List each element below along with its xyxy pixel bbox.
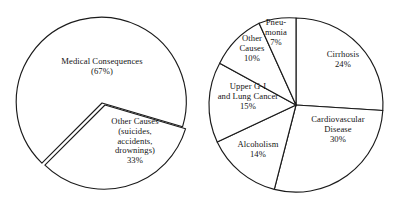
left-label-medical-consequences: Medical Consequences (67%) bbox=[28, 57, 176, 77]
right-label-upper-gi-lung-cancer: Upper G-I and Lung Cancer 15% bbox=[206, 82, 290, 111]
right-label-other-causes: Other Causes 10% bbox=[229, 34, 275, 63]
two-pie-chart-figure: Medical Consequences (67%) Other Causes … bbox=[0, 0, 401, 214]
left-label-other-causes: Other Causes (suicides, accidents, drown… bbox=[92, 117, 178, 166]
right-label-cardiovascular-disease: Cardiovascular Disease 30% bbox=[300, 115, 376, 144]
right-label-alcoholism: Alcoholism 14% bbox=[225, 140, 291, 160]
pie-charts-canvas bbox=[0, 0, 401, 214]
right-label-cirrhosis: Cirrhosis 24% bbox=[312, 50, 374, 70]
